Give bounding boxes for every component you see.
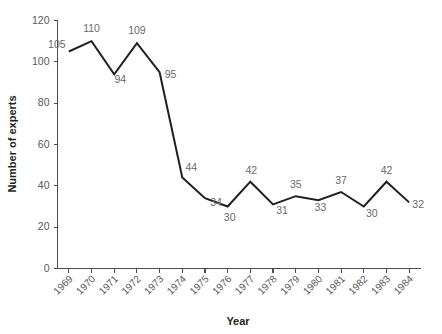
data-series-line — [69, 41, 409, 206]
y-tick-label: 20 — [38, 220, 50, 232]
y-tick-label: 60 — [38, 138, 50, 150]
line-chart-figure: 020406080100120 196919701971197219731974… — [0, 0, 442, 334]
data-point-label: 31 — [276, 204, 288, 216]
x-tick-label: 1978 — [255, 273, 279, 297]
series-polyline — [69, 41, 409, 206]
y-tick-label: 100 — [32, 55, 50, 67]
data-point-label: 94 — [114, 73, 126, 85]
chart-canvas: 020406080100120 196919701971197219731974… — [0, 0, 442, 334]
y-tick-label: 40 — [38, 179, 50, 191]
data-point-label: 105 — [48, 38, 66, 50]
x-tick-label: 1977 — [233, 273, 257, 297]
x-tick-label: 1969 — [51, 273, 75, 297]
x-tick-label: 1971 — [97, 273, 121, 297]
data-point-label: 34 — [210, 196, 222, 208]
data-point-label: 110 — [83, 22, 100, 34]
x-tick-label: 1970 — [74, 273, 98, 297]
x-axis: 1969197019711972197319741975197619771978… — [51, 269, 420, 297]
data-point-label: 42 — [245, 164, 257, 176]
data-point-label: 33 — [315, 201, 327, 213]
x-tick-label: 1983 — [369, 273, 393, 297]
x-tick-label: 1984 — [392, 273, 416, 297]
data-point-label: 32 — [412, 198, 424, 210]
y-tick-label: 120 — [32, 14, 50, 26]
data-point-label: 42 — [381, 164, 393, 176]
data-point-label: 30 — [366, 207, 378, 219]
data-point-label: 44 — [185, 161, 197, 173]
data-point-label: 37 — [335, 174, 347, 186]
data-point-label: 35 — [290, 178, 302, 190]
x-axis-title: Year — [226, 315, 250, 327]
x-tick-label: 1975 — [187, 273, 211, 297]
y-axis-title: Number of experts — [6, 95, 18, 192]
y-tick-label: 80 — [38, 96, 50, 108]
data-point-label: 30 — [224, 211, 236, 223]
x-tick-label: 1976 — [210, 273, 234, 297]
x-tick-label: 1979 — [278, 273, 302, 297]
x-tick-label: 1974 — [165, 273, 189, 297]
y-axis: 020406080100120 — [32, 14, 58, 274]
data-point-label: 109 — [128, 24, 146, 36]
y-tick-label: 0 — [44, 262, 50, 274]
x-tick-label: 1982 — [346, 273, 370, 297]
data-point-label: 95 — [165, 68, 177, 80]
x-tick-label: 1980 — [301, 273, 325, 297]
x-tick-label: 1972 — [119, 273, 143, 297]
x-tick-label: 1981 — [323, 273, 347, 297]
x-tick-label: 1973 — [142, 273, 166, 297]
data-point-labels: 10511094109954434304231353337304232 — [48, 22, 424, 222]
